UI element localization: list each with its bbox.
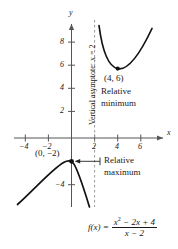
relative-minimum-point-label: (4, 6) xyxy=(104,74,124,83)
x-tick-label-4: 4 xyxy=(115,143,119,151)
relative-maximum-point-label: (0, −2) xyxy=(35,149,60,158)
function-denominator: x − 2 xyxy=(112,228,157,238)
y-tick-label-neg4: −4 xyxy=(55,181,64,189)
relative-minimum-annotation-line1: Relative xyxy=(101,87,131,96)
y-tick-label-6: 6 xyxy=(60,61,64,69)
graph-figure: y x −4 −2 2 4 6 2 4 6 8 −4 Vertical asym… xyxy=(0,0,178,249)
y-axis-label: y xyxy=(69,9,73,17)
relative-minimum-annotation-line2: minimum xyxy=(101,99,136,108)
y-tick-label-2: 2 xyxy=(60,107,64,115)
relative-minimum-point-marker xyxy=(116,67,120,71)
x-tick-label-neg4: −4 xyxy=(19,143,28,151)
x-axis-arrowhead xyxy=(157,135,163,140)
y-tick-label-4: 4 xyxy=(60,84,64,92)
function-expression: f(x) = x2 − 2x + 4 x − 2 xyxy=(88,216,157,238)
function-numerator: x2 − 2x + 4 xyxy=(112,216,157,228)
curve-right-branch xyxy=(99,26,152,69)
relative-maximum-annotation-line2: maximum xyxy=(104,168,141,177)
y-tick-label-8: 8 xyxy=(60,38,64,46)
vertical-asymptote-label: Vertical asymptote: x = 2 xyxy=(89,45,97,126)
relative-maximum-leader-arrow xyxy=(75,158,100,166)
curve-left-branch xyxy=(18,161,90,207)
relative-maximum-annotation-line1: Relative xyxy=(104,156,134,165)
x-tick-label-6: 6 xyxy=(138,143,142,151)
x-axis-label: x xyxy=(167,129,171,137)
relative-maximum-point-marker xyxy=(69,159,74,164)
x-tick-label-2: 2 xyxy=(92,143,96,151)
function-lhs: f(x) = xyxy=(88,222,109,232)
function-fraction: x2 − 2x + 4 x − 2 xyxy=(112,216,157,238)
y-axis-arrowhead xyxy=(69,24,74,30)
